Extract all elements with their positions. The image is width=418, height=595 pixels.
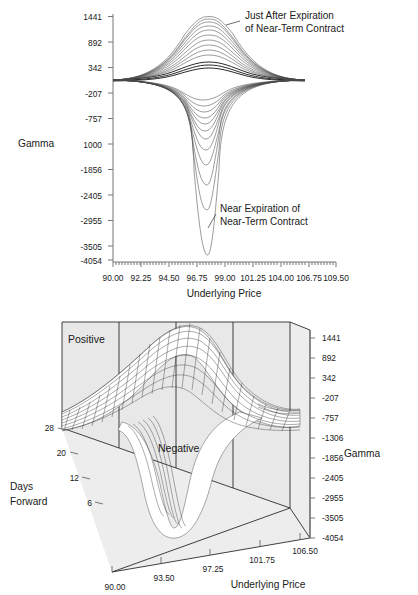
price3d-tick-4: 106.50 — [292, 546, 318, 556]
price3d-tick-3: 101.75 — [249, 555, 275, 565]
label-negative: Negative — [158, 442, 200, 454]
days-forward-title-line2: Forward — [10, 496, 48, 507]
z-tick-6: -1856 — [322, 453, 344, 463]
days-tick-0: 28 — [45, 423, 55, 433]
annotation-upper-line2: of Near-Term Contract — [245, 23, 344, 34]
z-tick-9: -3505 — [322, 513, 344, 523]
x-axis — [113, 262, 336, 267]
x-tick-8: 109.50 — [323, 273, 349, 283]
annotation-lower-line1: Near Expiration of — [220, 203, 300, 214]
y-tick-4: -757 — [85, 114, 102, 124]
z-tick-0: 1441 — [322, 333, 341, 343]
x-axis-tick-labels: 90.00 92.25 94.50 96.75 99.00 101.25 104… — [103, 273, 350, 283]
y-tick-8: -2955 — [81, 216, 103, 226]
x-tick-5: 101.25 — [240, 273, 266, 283]
gamma-2d-svg: 1441 892 342 -207 -757 1000 -1856 -2405 … — [0, 0, 418, 300]
annotation-upper-line1: Just After Expiration — [245, 10, 334, 21]
days-tick-3: 6 — [87, 498, 92, 508]
price3d-tick-0: 90.00 — [105, 582, 126, 592]
y-axis-tick-labels: 1441 892 342 -207 -757 1000 -1856 -2405 … — [81, 12, 103, 266]
label-positive: Positive — [68, 333, 105, 345]
y-axis-title: Gamma — [18, 138, 55, 149]
z-tick-10: -4054 — [322, 533, 344, 543]
gamma-2d-chart: 1441 892 342 -207 -757 1000 -1856 -2405 … — [0, 0, 418, 300]
z-tick-1: 892 — [322, 353, 336, 363]
price3d-tick-1: 93.50 — [154, 573, 175, 583]
z-axis — [310, 330, 315, 538]
x-axis-title: Underlying Price — [187, 288, 262, 299]
y-tick-3: -207 — [85, 89, 102, 99]
y-tick-0: 1441 — [83, 12, 102, 22]
x-tick-0: 90.00 — [103, 273, 124, 283]
leader-line-lower — [208, 214, 216, 228]
x-tick-7: 106.75 — [296, 273, 322, 283]
z-axis-tick-labels: 1441 892 342 -207 -757 -1306 -1856 -2405… — [322, 333, 344, 543]
annotation-lower-line2: Near-Term Contract — [220, 216, 308, 227]
leader-line-upper — [226, 21, 240, 25]
gamma-3d-svg: Positive Negative 1441 892 342 -207 -757… — [0, 300, 418, 595]
x-tick-3: 96.75 — [187, 273, 208, 283]
y-tick-7: -2405 — [81, 191, 103, 201]
z-tick-2: 342 — [322, 373, 336, 383]
y-tick-10: -4054 — [81, 256, 103, 266]
price3d-tick-2: 97.25 — [203, 564, 224, 574]
y-tick-2: 342 — [88, 63, 102, 73]
x-tick-4: 99.00 — [215, 273, 236, 283]
annotation-near-expiration: Near Expiration of Near-Term Contract — [220, 203, 308, 227]
y-tick-1: 892 — [88, 38, 102, 48]
z-tick-5: -1306 — [322, 433, 344, 443]
z-axis-title: Gamma — [344, 448, 381, 459]
y-tick-9: -3505 — [81, 242, 103, 252]
y-tick-6: -1856 — [81, 165, 103, 175]
z-tick-8: -2955 — [322, 493, 344, 503]
price-axis-3d-title: Underlying Price — [231, 579, 306, 590]
x-tick-1: 92.25 — [131, 273, 152, 283]
z-tick-4: -757 — [322, 413, 339, 423]
annotation-just-after-expiration: Just After Expiration of Near-Term Contr… — [245, 10, 344, 34]
days-forward-axis-title: Days Forward — [10, 481, 48, 507]
y-tick-5: 1000 — [83, 140, 102, 150]
days-tick-2: 12 — [70, 473, 80, 483]
x-tick-6: 104.00 — [268, 273, 294, 283]
days-tick-1: 20 — [57, 448, 67, 458]
gamma-3d-chart: Positive Negative 1441 892 342 -207 -757… — [0, 300, 418, 595]
days-forward-title-line1: Days — [10, 481, 33, 492]
z-tick-7: -2405 — [322, 473, 344, 483]
x-tick-2: 94.50 — [159, 273, 180, 283]
y-axis — [108, 14, 113, 262]
z-tick-3: -207 — [322, 393, 339, 403]
